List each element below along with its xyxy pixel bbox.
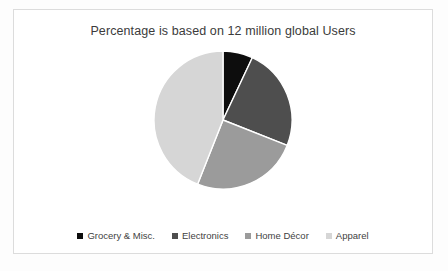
pie-chart — [153, 50, 293, 190]
chart-legend: Grocery & Misc. Electronics Home Décor A… — [14, 230, 432, 241]
legend-swatch-icon — [172, 233, 178, 239]
chart-title: Percentage is based on 12 million global… — [14, 24, 432, 38]
legend-item-electronics[interactable]: Electronics — [172, 230, 228, 241]
chart-container: Percentage is based on 12 million global… — [13, 9, 433, 254]
legend-label: Grocery & Misc. — [87, 230, 155, 241]
legend-label: Electronics — [182, 230, 228, 241]
legend-item-apparel[interactable]: Apparel — [326, 230, 369, 241]
plot-area — [14, 50, 432, 215]
page-background: Percentage is based on 12 million global… — [0, 0, 448, 271]
legend-item-home-decor[interactable]: Home Décor — [245, 230, 308, 241]
pie-slice-group — [154, 51, 292, 189]
legend-item-grocery-misc[interactable]: Grocery & Misc. — [77, 230, 155, 241]
legend-label: Home Décor — [255, 230, 308, 241]
legend-swatch-icon — [77, 233, 83, 239]
legend-label: Apparel — [336, 230, 369, 241]
legend-swatch-icon — [326, 233, 332, 239]
legend-swatch-icon — [245, 233, 251, 239]
pie-svg — [153, 50, 293, 190]
